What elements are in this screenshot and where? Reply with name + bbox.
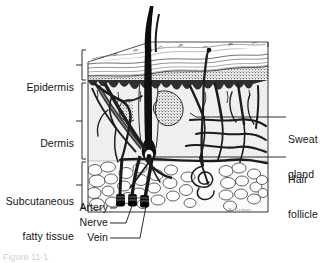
label-hair-follicle: Hair follicle: [288, 151, 327, 243]
label-epidermis-line-0: Epidermis: [16, 82, 74, 94]
figure-caption: Figure 11-1: [3, 252, 48, 262]
label-dermis: Dermis: [16, 115, 74, 173]
label-artery: Artery: [60, 202, 108, 214]
artist-signature: N. Grimes: [228, 207, 251, 212]
bracket-epidermis: [76, 50, 86, 80]
bracket-dermis: [76, 83, 86, 159]
artery-stub: [116, 194, 125, 207]
left-brackets: [76, 50, 86, 208]
label-sweat-gland-line-0: Sweat: [288, 134, 327, 146]
label-nerve: Nerve: [60, 217, 108, 229]
skin-anatomy-figure: Epidermis Dermis Subcutaneous fatty tiss…: [0, 0, 327, 263]
label-vein: Vein: [60, 232, 108, 244]
subcutaneous-fat-layer: [87, 161, 268, 213]
vein-stub: [140, 195, 149, 208]
label-hair-follicle-line-1: follicle: [288, 209, 327, 221]
label-dermis-line-0: Dermis: [16, 138, 74, 150]
label-epidermis: Epidermis: [16, 59, 74, 117]
label-hair-follicle-line-0: Hair: [288, 174, 327, 186]
